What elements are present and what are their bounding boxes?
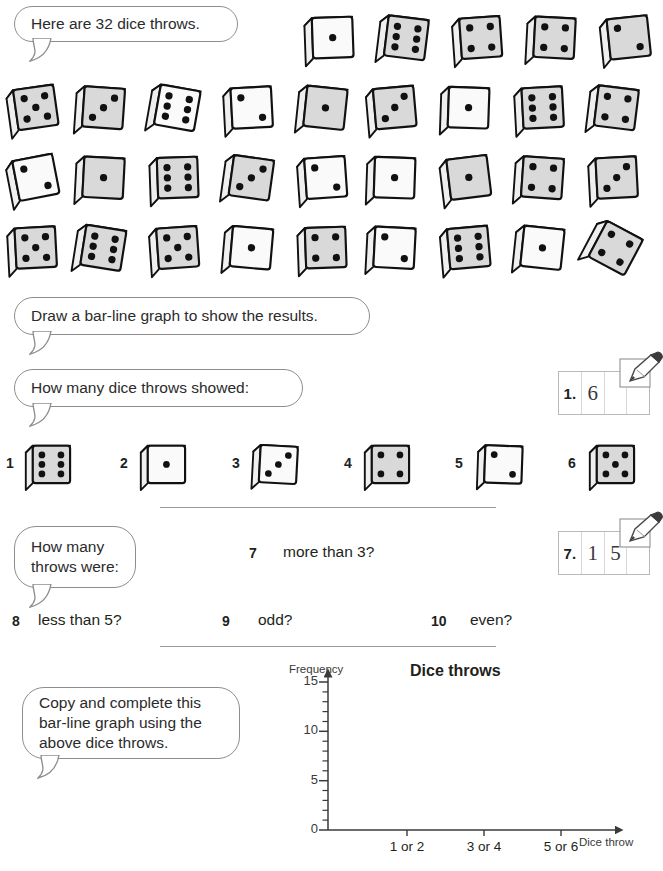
answer-label: 7. (559, 532, 582, 574)
question-number-4: 4 (344, 455, 352, 471)
question-number-9: 9 (222, 613, 230, 629)
die-face-2 (365, 218, 421, 274)
die-face-6 (74, 218, 130, 274)
die-face-5 (6, 218, 62, 274)
question-text-9: odd? (258, 611, 292, 629)
die-face-6 (148, 78, 204, 134)
bubble-tail-icon (29, 38, 55, 60)
bubble-intro-text: Here are 32 dice throws. (31, 14, 200, 34)
pencil-icon (618, 511, 663, 557)
y-tick-label: 0 (288, 821, 318, 836)
die-face-6 (148, 148, 204, 204)
die-face-5 (148, 218, 204, 274)
die-face-1 (439, 78, 495, 134)
bubble-tail-icon (29, 584, 55, 606)
die-face-4 (451, 8, 507, 64)
question-die-face-5 (588, 437, 640, 489)
answer-box-7[interactable]: 7. 1 5 (558, 531, 650, 575)
die-face-1 (365, 148, 421, 204)
bubble-copy-complete-line1: Copy and complete this (39, 693, 201, 713)
answer-digit-cell[interactable]: 1 (582, 532, 605, 574)
question-die-face-6 (24, 437, 76, 489)
die-face-6 (513, 78, 569, 134)
y-tick-label: 5 (288, 772, 318, 787)
bubble-draw-graph-text: Draw a bar-line graph to show the result… (31, 306, 318, 326)
question-die-face-3 (251, 437, 303, 489)
bubble-tail-icon (29, 403, 55, 425)
die-face-2 (6, 148, 62, 204)
die-face-4 (513, 148, 569, 204)
die-face-6 (377, 8, 433, 64)
bubble-copy-complete-line3: above dice throws. (39, 733, 168, 753)
bubble-intro: Here are 32 dice throws. (14, 6, 238, 42)
bubble-copy-complete: Copy and complete this bar-line graph us… (22, 687, 240, 759)
question-number-8: 8 (12, 613, 20, 629)
bubble-draw-graph: Draw a bar-line graph to show the result… (14, 297, 370, 335)
question-number-3: 3 (232, 455, 240, 471)
x-category-label: 5 or 6 (516, 839, 606, 854)
die-face-4 (525, 8, 581, 64)
bubble-tail-icon (29, 331, 55, 353)
die-face-3 (587, 148, 643, 204)
die-face-4 (587, 218, 643, 274)
question-number-2: 2 (120, 455, 128, 471)
die-face-1 (439, 148, 495, 204)
y-tick-label: 10 (288, 722, 318, 737)
die-face-1 (222, 218, 278, 274)
die-face-2 (296, 148, 352, 204)
die-face-3 (222, 148, 278, 204)
die-face-1 (303, 8, 359, 64)
pencil-icon (618, 351, 663, 397)
worksheet-page: Here are 32 dice throws. (0, 0, 663, 871)
chart-axes (286, 658, 663, 863)
die-face-1 (74, 148, 130, 204)
question-die-face-2 (476, 437, 528, 489)
die-face-4 (587, 78, 643, 134)
die-face-5 (6, 78, 62, 134)
bubble-how-many-were-line2: throws were: (31, 557, 119, 577)
die-face-1 (513, 218, 569, 274)
question-number-6: 6 (568, 455, 576, 471)
die-face-3 (74, 78, 130, 134)
bubble-tail-icon (37, 755, 63, 777)
question-text-10: even? (470, 611, 512, 629)
die-face-2 (222, 78, 278, 134)
die-face-4 (296, 218, 352, 274)
answer-label: 1. (559, 372, 582, 414)
question-die-face-1 (139, 437, 191, 489)
question-number-1: 1 (6, 455, 14, 471)
divider-rule (160, 507, 496, 508)
bubble-how-many-were: How many throws were: (14, 526, 136, 588)
die-face-3 (365, 78, 421, 134)
die-face-6 (439, 218, 495, 274)
bubble-how-many-showed-text: How many dice throws showed: (31, 378, 249, 398)
question-number-7: 7 (249, 545, 257, 561)
answer-box-1[interactable]: 1. 6 (558, 371, 650, 415)
die-face-2 (599, 8, 655, 64)
question-number-5: 5 (455, 455, 463, 471)
question-text-8: less than 5? (38, 611, 122, 629)
answer-digit-cell[interactable]: 6 (582, 372, 605, 414)
bubble-how-many-showed: How many dice throws showed: (14, 369, 303, 407)
divider-rule (160, 646, 496, 647)
question-die-face-4 (363, 437, 415, 489)
bar-line-chart: Dice throws Frequency Dice throw 051015 … (286, 658, 663, 863)
bubble-copy-complete-line2: bar-line graph using the (39, 713, 202, 733)
question-number-10: 10 (431, 613, 447, 629)
y-tick-label: 15 (288, 673, 318, 688)
bubble-how-many-were-line1: How many (31, 537, 104, 557)
die-face-1 (296, 78, 352, 134)
question-text-7: more than 3? (283, 543, 374, 561)
